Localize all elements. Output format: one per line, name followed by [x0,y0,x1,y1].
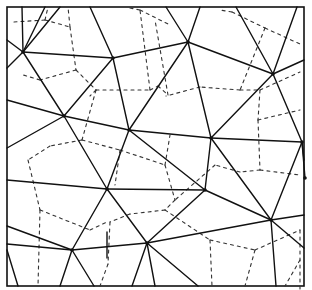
delaunay-edge [271,220,276,286]
delaunay-node [127,128,131,132]
voronoi-edge [100,264,108,286]
voronoi-edge [82,90,96,140]
delaunay-node [271,72,275,76]
voronoi-edge [165,200,175,210]
delaunay-edge [7,52,23,68]
delaunay-edge [7,40,23,52]
delaunay-node [62,114,66,118]
delaunay-edge [64,58,113,116]
voronoi-edge [76,70,96,90]
voronoi-edge [130,8,140,10]
delaunay-edge [205,138,211,190]
voronoi-edge [255,230,300,250]
voronoi-edge [200,87,240,90]
delaunay-edge [271,220,304,248]
voronoi-edge [130,210,165,214]
voronoi-edge [166,87,200,96]
delaunay-node [269,218,273,222]
delaunay-node [300,140,304,144]
delaunay-edge [166,7,188,42]
voronoi-edge [28,146,50,160]
voronoi-edge [40,210,90,230]
voronoi-edge [82,140,120,150]
voronoi-edge [108,222,110,264]
delaunay-edge [188,42,211,138]
delaunay-edge [60,250,72,286]
voronoi-edge [38,210,40,286]
delaunay-edge [72,250,94,286]
delaunay-edge [64,116,129,130]
delaunay-edge [129,130,205,190]
delaunay-node [70,248,74,252]
delaunay-edge [113,58,129,130]
voronoi-edge [90,222,107,230]
delaunay-edge [211,138,302,142]
voronoi-edge [70,27,76,70]
delaunay-edge [107,130,129,189]
delaunay-edge [147,190,205,243]
voronoi-edge [285,260,300,286]
delaunay-edge [188,7,200,42]
voronoi-edge [258,90,260,120]
voronoi-edge [245,250,255,286]
delaunay-node [21,50,25,54]
delaunay-node [209,136,213,140]
voronoi-edge [220,10,232,12]
delaunay-edge [7,116,64,148]
delaunay-edge [236,7,273,74]
delaunay-node [186,40,190,44]
voronoi-edge [140,10,170,25]
delaunay-edge [132,243,147,286]
delaunay-edge [113,42,188,58]
voronoi-edge [258,110,300,120]
voronoi-edge [210,240,255,250]
voronoi-edge [14,20,45,22]
voronoi-edge [232,12,265,28]
delaunay-edge [147,220,271,243]
voronoi-edge [28,160,40,210]
delaunay-edge [107,189,205,190]
voronoi-edge [155,20,168,95]
delaunay-edge [7,180,107,189]
delaunay-edge [107,189,147,243]
delaunay-edge [129,42,188,130]
voronoi-edge [258,120,260,170]
voronoi-edge [210,240,212,286]
voronoi-edge [45,7,48,20]
voronoi-edge [240,170,260,172]
delaunay-node [303,176,307,180]
delaunay-node [111,56,115,60]
delaunay-edge [90,7,113,58]
delaunay-edges [7,7,305,286]
voronoi-edge [68,7,70,27]
delaunay-node [203,188,207,192]
delaunay-edge [23,52,113,58]
voronoi-edge [265,28,300,44]
delaunay-edge [205,190,271,220]
voronoi-edge [50,140,82,146]
delaunay-edge [7,250,18,286]
voronoi-edges [14,7,300,290]
delaunay-node [145,241,149,245]
delaunay-edge [271,215,304,220]
delaunay-node [105,187,109,191]
delaunay-edge [211,138,271,220]
delaunay-edge [271,142,302,220]
voronoi-edge [40,70,76,80]
delaunay-edge [147,243,198,286]
delaunay-edge [188,42,273,74]
delaunay-edge [211,74,273,138]
voronoi-edge [165,165,175,200]
delaunay-edge [72,189,107,250]
delaunay-edge [22,7,23,52]
voronoi-edge [260,170,300,175]
delaunay-voronoi-diagram [0,0,312,290]
delaunay-edge [273,74,302,142]
voronoi-edge [215,165,240,172]
